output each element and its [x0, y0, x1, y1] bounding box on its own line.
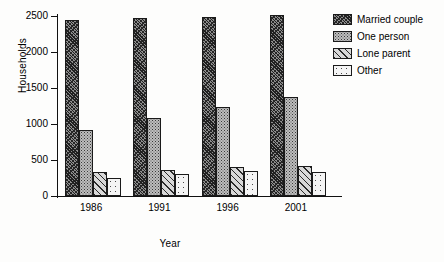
bar-1996-lone-parent [230, 167, 244, 196]
bar-1991-married-couple [133, 18, 147, 196]
x-axis-line [57, 196, 342, 197]
legend-label: One person [357, 31, 409, 42]
legend-item-one-person[interactable]: One person [333, 28, 443, 44]
bar-1986-other [107, 178, 121, 196]
bar-1986-married-couple [65, 20, 79, 196]
y-axis-tick-label: 2000 [8, 47, 48, 57]
y-axis-title: Households [17, 6, 28, 126]
bar-1986-one-person [79, 130, 93, 196]
legend-swatch-icon [333, 31, 352, 42]
legend-item-other[interactable]: Other [333, 62, 443, 78]
bar-1996-one-person [216, 107, 230, 196]
bar-2001-married-couple [270, 15, 284, 196]
legend-swatch-icon [333, 65, 352, 76]
y-axis-tick-label: 1500 [8, 83, 48, 93]
legend-swatch-icon [333, 14, 352, 25]
bar-1996-married-couple [202, 17, 216, 196]
bar-1991-one-person [147, 118, 161, 196]
y-axis-tick-label: 2500 [8, 11, 48, 21]
plot-area [57, 16, 330, 196]
chart-legend: Married coupleOne personLone parentOther [333, 11, 443, 79]
y-axis-tick-label: 500 [8, 155, 48, 165]
bar-1986-lone-parent [93, 172, 107, 196]
bar-1991-lone-parent [161, 170, 175, 196]
legend-item-lone-parent[interactable]: Lone parent [333, 45, 443, 61]
legend-item-married-couple[interactable]: Married couple [333, 11, 443, 27]
x-axis-tick-label: 1991 [129, 202, 189, 214]
x-axis-tick-label: 1996 [198, 202, 258, 214]
x-axis-tick-label: 1986 [61, 202, 121, 214]
x-axis-tick-label: 2001 [266, 202, 326, 214]
x-axis-title: Year [0, 238, 340, 249]
bar-1996-other [244, 171, 258, 196]
bar-2001-lone-parent [298, 166, 312, 196]
bar-2001-other [312, 172, 326, 196]
y-axis-tick-label: 0 [8, 191, 48, 201]
legend-swatch-icon [333, 48, 352, 59]
bar-2001-one-person [284, 97, 298, 196]
bar-chart-figure: Households 25002000150010005000 19861991… [0, 0, 444, 262]
legend-label: Married couple [357, 14, 423, 25]
legend-label: Lone parent [357, 48, 410, 59]
y-axis-tick-label: 1000 [8, 119, 48, 129]
y-axis-tick [51, 196, 57, 197]
bar-1991-other [175, 174, 189, 196]
legend-label: Other [357, 65, 382, 76]
